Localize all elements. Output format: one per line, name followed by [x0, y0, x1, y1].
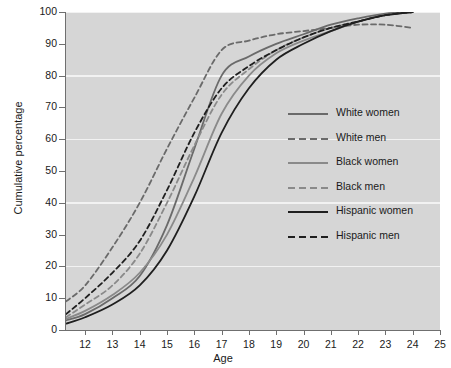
legend-label: Hispanic men [336, 229, 400, 241]
y-axis-title: Cumulative percentage [12, 88, 24, 228]
legend-swatch-icon [288, 155, 328, 167]
legend-label: Hispanic women [336, 204, 413, 216]
x-axis-title: Age [0, 352, 446, 364]
legend-swatch-icon [288, 106, 328, 118]
legend-item: Black men [288, 174, 438, 199]
legend-item: Hispanic men [288, 223, 438, 248]
legend-swatch-icon [288, 229, 328, 241]
legend-swatch-icon [288, 131, 328, 143]
legend-label: Black women [336, 155, 398, 167]
legend-item: Black women [288, 149, 438, 174]
legend-label: White women [336, 106, 400, 118]
legend-item: White men [288, 125, 438, 150]
legend-swatch-icon [288, 180, 328, 192]
legend-label: Black men [336, 180, 385, 192]
legend: White womenWhite menBlack womenBlack men… [288, 100, 438, 247]
legend-item: White women [288, 100, 438, 125]
legend-swatch-icon [288, 204, 328, 216]
legend-item: Hispanic women [288, 198, 438, 223]
legend-label: White men [336, 131, 386, 143]
